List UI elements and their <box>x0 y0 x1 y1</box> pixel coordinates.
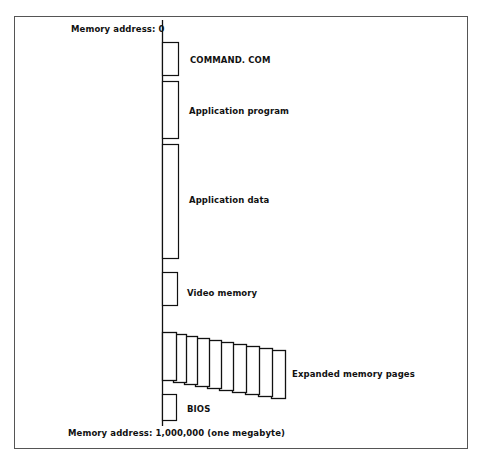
label-application-data: Application data <box>189 195 269 205</box>
expanded-memory-pages <box>163 333 286 399</box>
segment-bios <box>163 395 177 421</box>
top-address-label: Memory address: 0 <box>71 24 165 34</box>
memory-map-diagram <box>0 0 483 463</box>
label-application-program: Application program <box>189 106 289 116</box>
label-video-memory: Video memory <box>187 288 257 298</box>
bottom-address-label: Memory address: 1,000,000 (one megabyte) <box>68 428 285 438</box>
label-bios: BIOS <box>187 404 210 414</box>
segment-application-data <box>163 145 179 259</box>
segment-command-com <box>163 43 179 76</box>
label-command-com: COMMAND. COM <box>190 55 270 65</box>
label-expanded-memory-pages: Expanded memory pages <box>292 369 415 379</box>
segment-video-memory <box>163 273 178 306</box>
segment-application-program <box>163 82 179 139</box>
